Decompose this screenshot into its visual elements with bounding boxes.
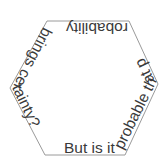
hexagon-text-figure: But is it probable that p robability bri… [0,0,168,167]
ring-text-top: robability [66,20,128,37]
ring-text-bottom: But is it [64,139,116,156]
hexagon-outline [10,21,158,155]
hexagon-canvas: But is it probable that p robability bri… [0,0,168,167]
